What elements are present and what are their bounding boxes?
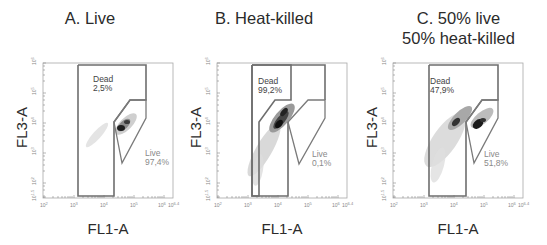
scatter-points xyxy=(242,100,299,187)
live-percent: 0,1% xyxy=(312,159,331,168)
svg-text:103: 103 xyxy=(420,201,429,208)
svg-text:106: 106 xyxy=(380,56,387,65)
svg-text:106: 106 xyxy=(332,201,341,208)
svg-text:102: 102 xyxy=(30,176,37,185)
y-axis-tick-labels: 106 105 104 103 102 101.5 xyxy=(204,56,211,201)
svg-text:102: 102 xyxy=(380,176,387,185)
svg-text:106: 106 xyxy=(158,201,167,208)
y-axis-ticks xyxy=(217,63,220,197)
dead-gate-label: Dead 47,9% xyxy=(430,77,454,95)
panel-a-live: A. Live FL3-A FL1-A 106 105 104 103 102 … xyxy=(0,0,180,245)
svg-text:106: 106 xyxy=(204,56,211,65)
svg-text:104: 104 xyxy=(450,201,459,208)
svg-text:104: 104 xyxy=(274,201,283,208)
svg-text:105: 105 xyxy=(380,86,387,95)
live-percent: 97,4% xyxy=(145,158,169,167)
panel-b-heat-killed: B. Heat-killed FL3-A FL1-A 106 105 104 1… xyxy=(174,0,354,245)
svg-text:105: 105 xyxy=(304,201,313,208)
svg-text:105: 105 xyxy=(204,86,211,95)
x-axis-tick-labels: 102 103 104 105 106 106.4 xyxy=(40,201,180,208)
live-gate-label: Live 51,8% xyxy=(484,150,508,168)
dead-percent: 2,5% xyxy=(93,84,113,93)
live-percent: 51,8% xyxy=(484,159,508,168)
x-axis-tick-labels: 102 103 104 105 106 106.4 xyxy=(214,201,354,208)
live-gate-label: Live 97,4% xyxy=(145,149,169,167)
svg-text:104: 104 xyxy=(380,116,387,125)
scatter-plot: 106 105 104 103 102 101.5 102 103 104 10… xyxy=(174,0,354,245)
panel-c-mixed: C. 50% live 50% heat-killed FL3-A FL1-A … xyxy=(350,0,547,245)
x-axis-tick-labels: 102 103 104 105 106 106.4 xyxy=(390,201,530,208)
y-axis-ticks xyxy=(393,63,396,197)
svg-text:105: 105 xyxy=(130,201,139,208)
dead-gate-label: Dead 2,5% xyxy=(93,75,113,93)
svg-text:106: 106 xyxy=(508,201,517,208)
svg-text:104: 104 xyxy=(204,116,211,125)
svg-text:102: 102 xyxy=(390,201,399,208)
svg-text:101.5: 101.5 xyxy=(30,189,37,201)
svg-text:105: 105 xyxy=(30,86,37,95)
svg-text:102: 102 xyxy=(214,201,223,208)
svg-text:103: 103 xyxy=(244,201,253,208)
live-gate-label: Live 0,1% xyxy=(312,150,331,168)
scatter-plot: 106 105 104 103 102 101.5 102 103 104 10… xyxy=(0,0,180,245)
y-axis-tick-labels: 106 105 104 103 102 101.5 xyxy=(380,56,387,201)
dead-percent: 47,9% xyxy=(430,86,454,95)
svg-text:103: 103 xyxy=(380,146,387,155)
svg-text:103: 103 xyxy=(70,201,79,208)
svg-text:103: 103 xyxy=(204,146,211,155)
scatter-plot: 106 105 104 103 102 101.5 102 103 104 10… xyxy=(350,0,547,245)
svg-text:104: 104 xyxy=(100,201,109,208)
dead-gate-label: Dead 99,2% xyxy=(258,77,282,95)
dead-percent: 99,2% xyxy=(258,86,282,95)
svg-text:105: 105 xyxy=(480,201,489,208)
svg-text:103: 103 xyxy=(30,146,37,155)
svg-text:102: 102 xyxy=(40,201,49,208)
svg-text:101.5: 101.5 xyxy=(380,189,387,201)
svg-text:102: 102 xyxy=(204,176,211,185)
svg-text:101.5: 101.5 xyxy=(204,189,211,201)
y-axis-tick-labels: 106 105 104 103 102 101.5 xyxy=(30,56,37,201)
y-axis-ticks xyxy=(43,63,46,197)
svg-text:106.4: 106.4 xyxy=(518,201,530,208)
svg-text:106: 106 xyxy=(30,56,37,65)
svg-text:104: 104 xyxy=(30,116,37,125)
